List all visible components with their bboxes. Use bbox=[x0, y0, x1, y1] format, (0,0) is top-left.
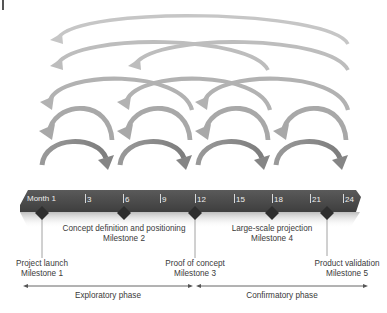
tick-month-6: 6 bbox=[123, 194, 129, 204]
phase-exploratory-label: Exploratory phase bbox=[58, 291, 158, 301]
tick-month-24: 24 bbox=[343, 194, 354, 204]
milestone-1-label: Project launch Milestone 1 bbox=[2, 259, 82, 279]
phase-arrows bbox=[23, 284, 368, 288]
milestone-3-number: Milestone 3 bbox=[150, 269, 240, 279]
tick-month-18: 18 bbox=[272, 194, 283, 204]
milestone-1-name: Project launch bbox=[2, 259, 82, 269]
milestone-2-name: Concept definition and positioning bbox=[54, 224, 194, 234]
tick-month-3: 3 bbox=[85, 194, 91, 204]
tick-month-21: 21 bbox=[310, 194, 321, 204]
feedback-arc-row-3 bbox=[40, 79, 348, 110]
milestone-2-number: Milestone 2 bbox=[54, 234, 194, 244]
feedback-arc-row-1 bbox=[50, 16, 348, 44]
tick-month-1: Month 1 bbox=[27, 194, 56, 203]
milestone-3-label: Proof of concept Milestone 3 bbox=[150, 259, 240, 279]
feedback-arc-row-4 bbox=[39, 108, 346, 140]
milestone-4-number: Milestone 4 bbox=[222, 234, 322, 244]
phase-confirmatory-label: Confirmatory phase bbox=[232, 291, 332, 301]
milestone-5-name: Product validation bbox=[305, 259, 387, 269]
milestone-5-number: Milestone 5 bbox=[305, 269, 387, 279]
tick-month-15: 15 bbox=[234, 194, 245, 204]
milestone-5-label: Product validation Milestone 5 bbox=[305, 259, 387, 279]
tick-month-9: 9 bbox=[160, 194, 166, 204]
feedback-arc-row-2 bbox=[50, 42, 348, 70]
milestone-1-number: Milestone 1 bbox=[2, 269, 82, 279]
forward-arc-row-5 bbox=[42, 142, 348, 170]
milestone-2-label: Concept definition and positioning Miles… bbox=[54, 224, 194, 244]
tick-month-12: 12 bbox=[195, 194, 206, 204]
milestone-4-label: Large-scale projection Milestone 4 bbox=[222, 224, 322, 244]
milestone-3-name: Proof of concept bbox=[150, 259, 240, 269]
milestone-4-name: Large-scale projection bbox=[222, 224, 322, 234]
